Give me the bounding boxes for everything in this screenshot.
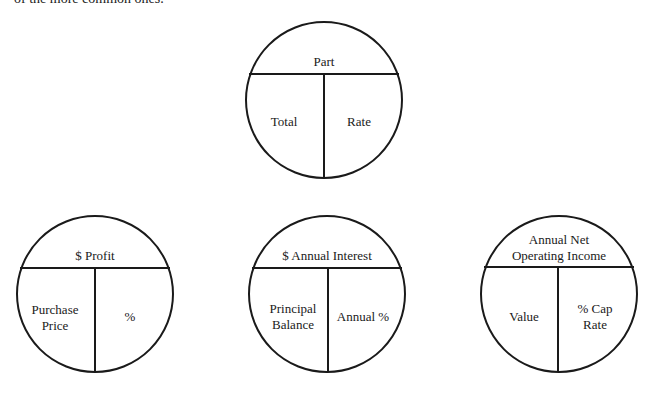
diagram-annual-interest: $ Annual Interest Principal Balance Annu… [249,216,405,372]
label-cap: % Cap [577,301,612,316]
label-cap-rate: Rate [583,317,607,332]
label-part: Part [314,54,335,69]
diagram-part-total-rate: Part Total Rate [246,22,402,178]
diagram-cap-rate: Annual Net Operating Income Value % Cap … [481,216,637,372]
label-percent: % [125,309,136,324]
label-annual-interest: $ Annual Interest [282,248,372,263]
label-value: Value [509,309,539,324]
label-annual-percent: Annual % [337,309,390,324]
label-annual-net: Annual Net [529,232,590,247]
label-price: Price [42,318,69,333]
label-balance: Balance [272,317,314,332]
label-purchase: Purchase [32,302,79,317]
circle-diagrams: Part Total Rate $ Profit Purchase Price … [0,0,654,396]
label-total: Total [271,114,298,129]
label-operating-income: Operating Income [512,248,606,263]
label-profit: $ Profit [75,248,115,263]
label-principal: Principal [270,301,317,316]
diagram-profit: $ Profit Purchase Price % [17,216,173,372]
label-rate: Rate [347,114,371,129]
